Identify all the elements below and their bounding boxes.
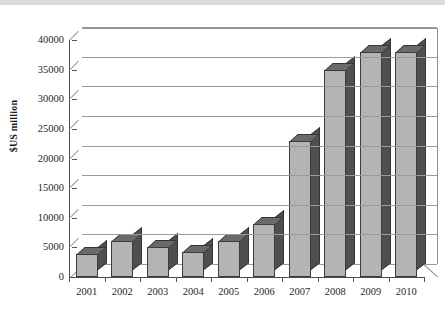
- bar-front-face: [289, 141, 311, 277]
- x-axis-tick-label: 2010: [386, 286, 426, 297]
- gridline: [82, 146, 437, 147]
- gridline: [82, 175, 437, 176]
- bar-side-face: [98, 240, 107, 270]
- bars-layer: 2001200220032004200520062007200820092010: [0, 0, 445, 309]
- x-axis-tick-mark: [211, 277, 212, 282]
- x-axis-tick-mark: [318, 277, 319, 282]
- bar-front-face: [147, 247, 169, 277]
- x-axis-tick-label: 2009: [351, 286, 391, 297]
- bar-side-face: [169, 233, 178, 270]
- x-axis-tick-mark: [247, 277, 248, 282]
- x-axis-tick-mark: [140, 277, 141, 282]
- bar-2002: [111, 241, 133, 277]
- gridline: [82, 116, 437, 117]
- x-axis-tick-mark: [424, 277, 425, 282]
- x-axis-tick-mark: [105, 277, 106, 282]
- bar-2004: [182, 252, 204, 277]
- bar-2008: [324, 70, 346, 277]
- bar-2006: [253, 224, 275, 277]
- bar-2003: [147, 247, 169, 277]
- x-axis-tick-mark: [389, 277, 390, 282]
- bar-front-face: [324, 70, 346, 277]
- x-axis-tick-mark: [69, 277, 70, 282]
- gridline: [82, 205, 437, 206]
- x-axis-tick-label: 2008: [315, 286, 355, 297]
- x-axis-tick-label: 2001: [67, 286, 107, 297]
- bar-front-face: [182, 252, 204, 277]
- gridline: [82, 86, 437, 87]
- x-axis-tick-label: 2007: [280, 286, 320, 297]
- bar-2007: [289, 141, 311, 277]
- x-axis-tick-label: 2006: [244, 286, 284, 297]
- bar-side-face: [311, 127, 320, 270]
- x-axis-tick-label: 2003: [138, 286, 178, 297]
- bar-side-face: [204, 237, 213, 270]
- x-axis-tick-label: 2002: [102, 286, 142, 297]
- x-axis-tick-mark: [176, 277, 177, 282]
- bar-front-face: [111, 241, 133, 277]
- bar-front-face: [218, 241, 240, 277]
- bar-2005: [218, 241, 240, 277]
- gridline: [82, 57, 437, 58]
- x-axis-tick-mark: [282, 277, 283, 282]
- x-axis-tick-mark: [353, 277, 354, 282]
- bar-front-face: [253, 224, 275, 277]
- bar-side-face: [346, 56, 355, 270]
- gridline: [82, 27, 437, 28]
- bar-chart: $US million 0500010000150002000025000300…: [0, 0, 445, 309]
- gridline: [82, 234, 437, 235]
- x-axis-tick-label: 2005: [209, 286, 249, 297]
- x-axis-tick-label: 2004: [173, 286, 213, 297]
